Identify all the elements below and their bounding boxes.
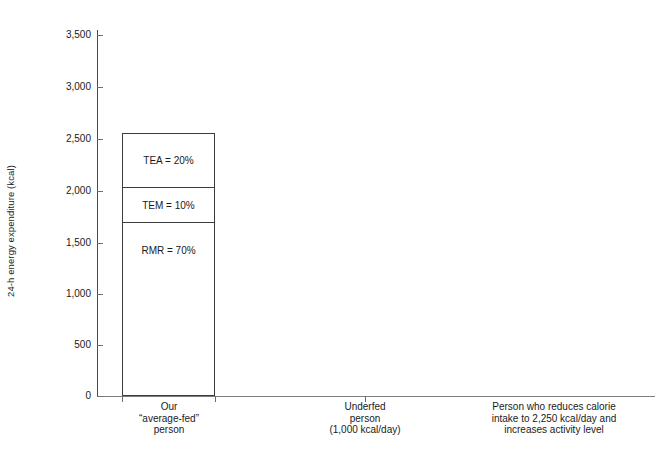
y-tick-label-1000: 1,000 [47,289,91,299]
bar-segment-tem: TEM = 10% [123,187,214,222]
y-tick-label-500: 500 [47,340,91,350]
category-label-reduced-intake-line1: Person who reduces calorie [448,401,660,413]
y-tick-2000 [97,191,103,192]
y-tick-label-2000: 2,000 [47,186,91,196]
y-tick-label-3000: 3,000 [47,82,91,92]
y-tick-0 [97,396,103,397]
bar-segment-rmr: RMR = 70% [123,222,214,397]
y-axis-title-text: 24-h energy expenditure (kcal) [5,165,16,297]
category-label-underfed-line1: Underfed [292,401,438,413]
bar-segment-tea: TEA = 20% [123,134,214,187]
y-tick-500 [97,345,103,346]
y-tick-label-3000-wrap: 3,000 [47,82,91,92]
category-label-average-fed-line2: “average-fed” [110,413,228,425]
y-axis-line [97,30,98,396]
y-tick-2500 [97,139,103,140]
bar-segment-tea-label: TEA = 20% [143,155,193,166]
category-label-underfed-line2: person [292,413,438,425]
y-tick-1000 [97,294,103,295]
chart-container: 24-h energy expenditure (kcal) 3,500 3,0… [0,0,667,462]
y-tick-label-500-wrap: 500 [47,340,91,350]
y-tick-label-1000-wrap: 1,000 [47,289,91,299]
category-label-average-fed-line3: person [110,424,228,436]
y-tick-label-1500: 1,500 [47,238,91,248]
category-label-reduced-intake-line2: intake to 2,250 kcal/day and [448,413,660,425]
category-label-reduced-intake: Person who reduces calorie intake to 2,2… [448,401,660,436]
bar-segment-tem-label: TEM = 10% [142,200,195,211]
y-tick-3000 [97,87,103,88]
category-label-average-fed-line1: Our [110,401,228,413]
y-tick-label-2500: 2,500 [47,134,91,144]
category-label-underfed: Underfed person (1,000 kcal/day) [292,401,438,436]
y-tick-label-0-wrap: 0 [47,391,91,401]
y-axis-title: 24-h energy expenditure (kcal) [0,0,20,462]
category-label-reduced-intake-line3: increases activity level [448,424,660,436]
y-tick-label-2500-wrap: 2,500 [47,134,91,144]
category-label-average-fed: Our “average-fed” person [110,401,228,436]
category-label-underfed-line3: (1,000 kcal/day) [292,424,438,436]
y-tick-1500 [97,243,103,244]
y-tick-label-3500: 3,500 [47,30,91,40]
y-tick-label-2000-wrap: 2,000 [47,186,91,196]
bar-segment-rmr-label: RMR = 70% [141,245,195,256]
y-tick-3500 [97,35,103,36]
y-tick-label-3500-wrap: 3,500 [47,30,91,40]
bar-average-fed-person: TEA = 20% TEM = 10% RMR = 70% [122,133,215,396]
y-tick-label-0: 0 [47,391,91,401]
y-tick-label-1500-wrap: 1,500 [47,238,91,248]
